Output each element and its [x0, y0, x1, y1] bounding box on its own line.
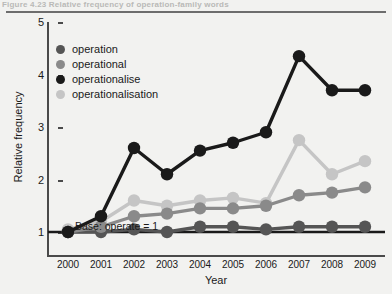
- chart-area: 12345 2000200120022003200420052006200720…: [0, 0, 392, 294]
- legend-item-operationalise[interactable]: operationalise: [56, 72, 158, 86]
- data-point-operational-2008[interactable]: [326, 186, 338, 198]
- baseline-annotation: Base: operate = 1: [75, 220, 158, 232]
- data-point-operationalise-2003[interactable]: [161, 168, 173, 180]
- data-point-operation-2003[interactable]: [161, 226, 173, 238]
- data-point-operationalise-2004[interactable]: [194, 144, 206, 156]
- legend-item-operation[interactable]: operation: [56, 42, 158, 56]
- data-point-operational-2003[interactable]: [161, 207, 173, 219]
- data-point-operational-2006[interactable]: [260, 200, 272, 212]
- legend-swatch-icon: [56, 45, 65, 54]
- data-point-operationalisation-2008[interactable]: [326, 168, 338, 180]
- legend-item-label: operationalisation: [72, 89, 158, 100]
- data-point-operationalise-2007[interactable]: [293, 50, 305, 62]
- legend-item-operational[interactable]: operational: [56, 57, 158, 71]
- series-line-operationalisation: [68, 140, 365, 229]
- data-point-operation-2004[interactable]: [194, 221, 206, 233]
- data-point-operational-2009[interactable]: [359, 181, 371, 193]
- data-point-operationalisation-2007[interactable]: [293, 134, 305, 146]
- data-point-operationalisation-2002[interactable]: [128, 194, 140, 206]
- data-point-operationalise-2009[interactable]: [359, 84, 371, 96]
- data-point-operationalise-2005[interactable]: [227, 137, 239, 149]
- data-point-operational-2005[interactable]: [227, 202, 239, 214]
- data-point-operationalise-2000[interactable]: [62, 226, 74, 238]
- legend-swatch-icon: [56, 60, 65, 69]
- legend-item-label: operational: [72, 59, 126, 70]
- data-point-operational-2004[interactable]: [194, 202, 206, 214]
- legend-item-label: operationalise: [72, 74, 141, 85]
- data-point-operationalise-2006[interactable]: [260, 126, 272, 138]
- legend-item-operationalisation[interactable]: operationalisation: [56, 87, 158, 101]
- data-point-operation-2009[interactable]: [359, 221, 371, 233]
- data-point-operationalise-2002[interactable]: [128, 142, 140, 154]
- data-point-operationalisation-2009[interactable]: [359, 155, 371, 167]
- legend: operationoperationaloperationaliseoperat…: [56, 42, 158, 102]
- data-point-operational-2007[interactable]: [293, 189, 305, 201]
- data-point-operationalise-2008[interactable]: [326, 84, 338, 96]
- data-point-operation-2005[interactable]: [227, 221, 239, 233]
- legend-swatch-icon: [56, 90, 65, 99]
- data-point-operation-2006[interactable]: [260, 223, 272, 235]
- legend-item-label: operation: [72, 44, 118, 55]
- data-point-operation-2008[interactable]: [326, 221, 338, 233]
- data-point-operation-2007[interactable]: [293, 221, 305, 233]
- legend-swatch-icon: [56, 75, 65, 84]
